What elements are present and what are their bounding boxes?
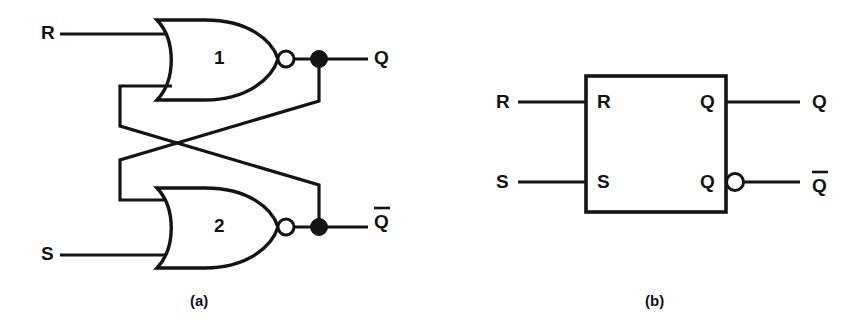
label-s-input-a: S — [41, 244, 54, 263]
caption-panel-a: (a) — [190, 293, 208, 308]
label-s-input-b: S — [496, 172, 509, 191]
figure-sr-latch: R S 1 2 Q Q (a) R S R S Q Q Q Q (b) — [0, 0, 864, 333]
caption-panel-b: (b) — [645, 293, 664, 308]
diagram-vector-layer — [0, 0, 864, 333]
pin-label-qbar: Q — [700, 172, 715, 191]
label-r-input-a: R — [41, 23, 55, 42]
label-q-output-a: Q — [374, 48, 389, 67]
label-gate-1-number: 1 — [214, 48, 225, 67]
label-r-input-b: R — [496, 92, 510, 111]
junction-dot-qbar — [311, 219, 328, 236]
label-gate-2-number: 2 — [214, 216, 225, 235]
label-qbar-output-b: Q — [812, 176, 827, 195]
pin-label-r: R — [597, 92, 611, 111]
block-qbar-output-bubble — [727, 174, 744, 191]
pin-label-s: S — [597, 172, 610, 191]
nor-gate-2-output-bubble — [278, 219, 294, 235]
junction-dot-q — [311, 51, 328, 68]
nor-gate-1-output-bubble — [278, 51, 294, 67]
pin-label-q: Q — [700, 92, 715, 111]
label-qbar-output-a: Q — [374, 212, 389, 231]
label-q-output-b: Q — [812, 92, 827, 111]
